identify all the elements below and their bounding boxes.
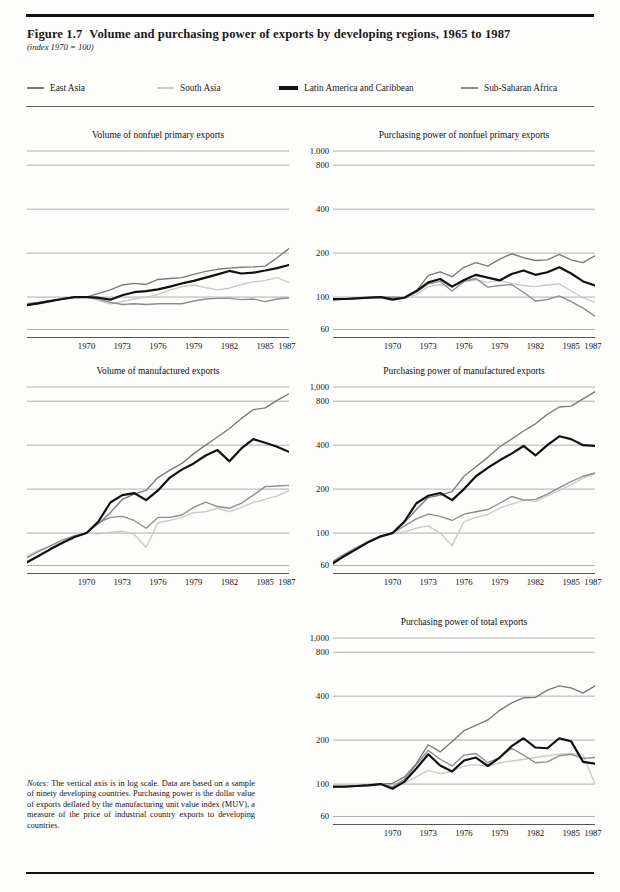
legend-item-sub-saharan-africa: Sub-Saharan Africa (461, 80, 557, 96)
y-axis-tick-label: 400 (289, 691, 329, 701)
series-line-east-asia (333, 254, 595, 301)
notes-text: The vertical axis is in log scale. Data … (27, 779, 255, 830)
series-line-south-asia (27, 491, 289, 556)
x-axis-tick-label: 1979 (185, 577, 202, 587)
x-axis-tick-label: 1970 (78, 341, 95, 351)
y-axis-tick-label: 1,000 (289, 633, 329, 643)
chart-title: Volume of nonfuel primary exports (27, 130, 289, 140)
y-axis-tick-label: 400 (289, 440, 329, 450)
legend-divider (26, 106, 594, 107)
x-axis-tick-label: 1985 (562, 828, 579, 838)
legend-line-swatch-icon (27, 87, 44, 90)
series-line-sub-saharan-africa (333, 473, 595, 561)
x-axis-tick-label: 1970 (78, 577, 95, 587)
x-axis-tick-label: 1973 (420, 341, 437, 351)
y-axis-tick-label: 400 (289, 204, 329, 214)
series-line-sub-saharan-africa (27, 485, 289, 557)
x-axis-tick-label: 1976 (455, 577, 472, 587)
x-axis-tick-label: 1982 (221, 341, 238, 351)
chart-title: Volume of manufactured exports (27, 366, 289, 376)
x-axis-tick-label: 1982 (527, 577, 544, 587)
legend-label: East Asia (50, 83, 85, 93)
y-axis-tick-label: 200 (289, 248, 329, 258)
x-axis-mid-right: 1970197319761979198219851987 (333, 577, 595, 591)
x-axis-tick-label: 1987 (584, 577, 601, 587)
series-line-latin-america-and-caribbean (333, 436, 595, 563)
x-axis-tick-label: 1982 (221, 577, 238, 587)
y-axis-tick-label: 1.000 (289, 146, 329, 156)
y-axis-tick-label: 60 (289, 560, 329, 570)
x-axis-tick-label: 1985 (256, 577, 273, 587)
bottom-rule (26, 872, 594, 874)
x-axis-tick-label: 1970 (384, 341, 401, 351)
x-axis-mid-left: 1970197319761979198219851987 (27, 577, 289, 591)
x-axis-tick-label: 1973 (114, 577, 131, 587)
legend-item-south-asia: South Asia (157, 80, 221, 96)
x-axis-rule (333, 337, 595, 338)
chart-title: Purchasing power of nonfuel primary expo… (333, 130, 595, 140)
legend-line-swatch-icon (279, 86, 298, 89)
series-line-latin-america-and-caribbean (27, 439, 289, 562)
legend-label: Sub-Saharan Africa (484, 83, 557, 93)
series-line-south-asia (333, 474, 595, 562)
page-title: Figure 1.7Volume and purchasing power of… (27, 27, 595, 41)
chart-title: Purchasing power of manufactured exports (333, 366, 595, 376)
legend-line-swatch-icon (461, 87, 478, 90)
y-axis-tick-label: 800 (289, 396, 329, 406)
x-axis-tick-label: 1979 (185, 341, 202, 351)
series-line-latin-america-and-caribbean (333, 267, 595, 299)
y-axis-tick-label: 100 (289, 528, 329, 538)
legend-label: South Asia (180, 83, 221, 93)
legend-line-swatch-icon (157, 87, 174, 90)
x-axis-tick-label: 1982 (527, 341, 544, 351)
legend-label: Latin America and Caribbean (304, 83, 414, 93)
x-axis-tick-label: 1979 (491, 828, 508, 838)
series-line-south-asia (333, 753, 595, 787)
x-axis-tick-label: 1987 (584, 341, 601, 351)
x-axis-top-right: 1970197319761979198219851987 (333, 341, 595, 355)
y-axis-tick-label: 100 (289, 779, 329, 789)
x-axis-tick-label: 1985 (562, 577, 579, 587)
notes-label: Notes: (27, 779, 49, 788)
x-axis-tick-label: 1985 (256, 341, 273, 351)
x-axis-rule (27, 337, 289, 338)
x-axis-tick-label: 1976 (149, 341, 166, 351)
y-axis-tick-label: 800 (289, 647, 329, 657)
y-axis-tick-label: 100 (289, 292, 329, 302)
x-axis-tick-label: 1973 (420, 828, 437, 838)
x-axis-tick-label: 1976 (455, 828, 472, 838)
legend: East AsiaSouth AsiaLatin America and Car… (27, 80, 595, 98)
x-axis-tick-label: 1987 (278, 341, 295, 351)
series-line-south-asia (333, 280, 595, 302)
top-rule (26, 14, 594, 17)
x-axis-rule (333, 573, 595, 574)
y-axis-tick-label: 1,000 (289, 382, 329, 392)
plot-area (333, 145, 595, 335)
figure-subtitle: (index 1970 = 100) (27, 42, 94, 52)
x-axis-rule (27, 573, 289, 574)
legend-item-latin-america-and-caribbean: Latin America and Caribbean (279, 80, 414, 96)
x-axis-tick-label: 1976 (455, 341, 472, 351)
x-axis-tick-label: 1973 (114, 341, 131, 351)
plot-area (333, 381, 595, 571)
x-axis-tick-label: 1970 (384, 828, 401, 838)
x-axis-tick-label: 1976 (149, 577, 166, 587)
y-axis-tick-label: 60 (289, 811, 329, 821)
series-line-east-asia (333, 392, 595, 564)
figure-title-text: Volume and purchasing power of exports b… (89, 27, 510, 41)
x-axis-tick-label: 1985 (562, 341, 579, 351)
figure-number: Figure 1.7 (27, 27, 82, 41)
series-line-east-asia (333, 686, 595, 787)
plot-area (27, 381, 289, 571)
y-axis-tick-label: 200 (289, 484, 329, 494)
x-axis-tick-label: 1982 (527, 828, 544, 838)
x-axis-top-left: 1970197319761979198219851987 (27, 341, 289, 355)
series-line-latin-america-and-caribbean (333, 738, 595, 788)
x-axis-tick-label: 1973 (420, 577, 437, 587)
y-axis-tick-label: 60 (289, 324, 329, 334)
x-axis-tick-label: 1987 (584, 828, 601, 838)
x-axis-rule (333, 824, 595, 825)
plot-area (27, 145, 289, 335)
figure-notes: Notes: The vertical axis is in log scale… (27, 779, 255, 831)
chart-title: Purchasing power of total exports (333, 617, 595, 627)
